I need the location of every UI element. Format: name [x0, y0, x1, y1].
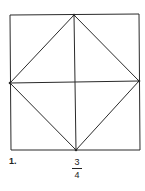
- figure-number: 1.: [9, 156, 17, 166]
- vertex-bottom: [75, 149, 78, 152]
- fraction-bar: [72, 168, 82, 169]
- fraction-label: 3 4: [70, 157, 84, 180]
- vertex-top: [73, 14, 76, 17]
- vertex-left: [9, 82, 12, 85]
- vertex-right: [138, 80, 141, 83]
- fraction-numerator: 3: [74, 157, 79, 167]
- fraction-denominator: 4: [74, 170, 79, 180]
